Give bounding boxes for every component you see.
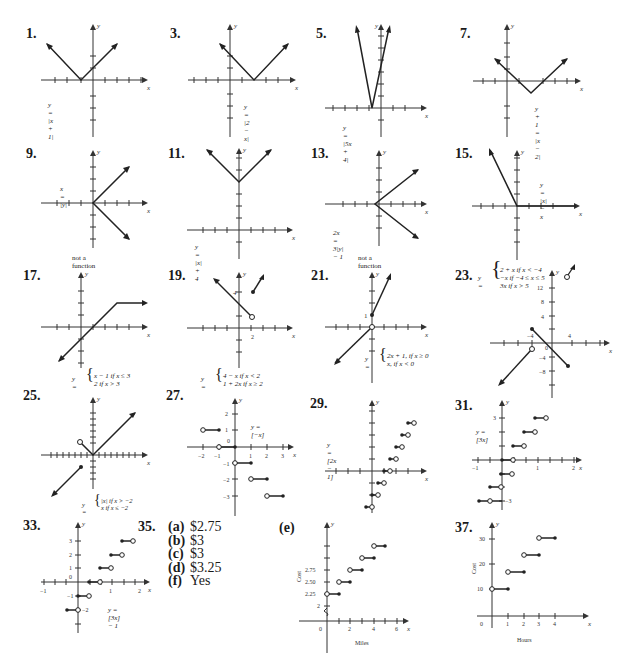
- svg-text:y: y: [242, 270, 247, 278]
- svg-text:6: 6: [395, 626, 398, 632]
- svg-text:0: 0: [480, 621, 483, 627]
- svg-text:−2: −2: [82, 607, 88, 613]
- graph-33: −1 1 2 3 2 1 0 −1 −2 xy: [38, 520, 168, 640]
- problem-number: 27.: [166, 388, 184, 404]
- svg-text:−1: −1: [214, 453, 220, 459]
- problem-number: 23.: [455, 268, 473, 284]
- svg-text:Hours: Hours: [517, 637, 532, 643]
- problem-number: 31.: [455, 398, 473, 414]
- svg-text:x: x: [147, 586, 152, 594]
- graph-1: xy: [38, 22, 188, 162]
- svg-text:3: 3: [493, 415, 496, 421]
- not-a-function-note: not a function: [358, 254, 381, 270]
- problem-number: 1.: [26, 26, 37, 42]
- not-a-function-note: not a function: [72, 254, 95, 270]
- problem-number: 15.: [455, 146, 473, 162]
- svg-text:20: 20: [479, 561, 485, 567]
- equation-label: y = [−x]: [251, 423, 264, 439]
- answer-a: (a)$2.75: [168, 520, 222, 534]
- equation-label: 2x = 3|y| − 1: [333, 229, 343, 261]
- svg-text:2: 2: [251, 334, 254, 340]
- graph-27: −2 −1 1 2 3 2 1 0 −1 −2 −3 xy: [185, 396, 315, 526]
- svg-text:x: x: [146, 331, 151, 339]
- svg-text:12: 12: [537, 285, 543, 291]
- svg-text:x: x: [424, 208, 429, 216]
- problem-number: 3.: [170, 26, 181, 42]
- svg-text:4: 4: [233, 289, 237, 297]
- graph-35e: 2.75 2.50 2.25 2 0 2 4 6 Miles Cost xy: [295, 520, 425, 660]
- svg-text:Cost: Cost: [296, 571, 302, 582]
- svg-text:−3: −3: [505, 498, 511, 504]
- svg-text:x: x: [292, 451, 297, 459]
- svg-text:4: 4: [553, 621, 556, 627]
- svg-text:−2: −2: [223, 477, 229, 483]
- svg-text:−8: −8: [539, 369, 545, 375]
- svg-text:−4: −4: [527, 333, 533, 339]
- svg-text:8: 8: [541, 299, 544, 305]
- svg-text:2: 2: [225, 411, 228, 417]
- svg-text:1: 1: [109, 588, 112, 594]
- graph-37: 30 20 10 0 1 2 3 4 Hours Cost xy: [472, 520, 612, 650]
- graph-21: 1 xy: [325, 270, 445, 390]
- equation-label: y = |x| − x: [540, 181, 547, 221]
- svg-text:1: 1: [249, 453, 252, 459]
- svg-text:y: y: [81, 520, 86, 528]
- equation-label: y = |x + 1|: [48, 101, 53, 141]
- svg-text:2.75: 2.75: [305, 567, 316, 573]
- svg-text:0: 0: [227, 438, 230, 444]
- svg-text:y: y: [96, 148, 101, 156]
- svg-text:x: x: [146, 459, 151, 467]
- svg-text:2: 2: [317, 603, 320, 609]
- svg-text:y: y: [233, 22, 238, 30]
- graph-7: xy: [473, 22, 593, 162]
- svg-text:0: 0: [69, 574, 72, 580]
- problem-number: 35.: [138, 520, 156, 534]
- svg-text:x: x: [291, 234, 296, 242]
- problem-number: 37.: [455, 520, 473, 536]
- equation-label: y = [3x]: [476, 428, 488, 444]
- problem-number: 9.: [26, 146, 37, 162]
- problem-number: 7.: [460, 26, 471, 42]
- svg-text:2: 2: [265, 453, 268, 459]
- answer-b: (b)$3: [168, 534, 222, 548]
- svg-text:x: x: [294, 84, 299, 92]
- svg-text:x: x: [406, 625, 411, 633]
- svg-text:y: y: [374, 22, 379, 30]
- svg-text:y: y: [242, 146, 247, 154]
- svg-text:1: 1: [536, 465, 539, 471]
- svg-text:1: 1: [225, 427, 228, 433]
- graph-29: xy: [325, 398, 445, 518]
- equation-label: x = |y|: [60, 185, 67, 209]
- svg-text:4: 4: [568, 333, 571, 339]
- svg-text:y: y: [330, 520, 335, 528]
- svg-text:−1: −1: [223, 461, 229, 467]
- svg-text:x: x: [424, 331, 429, 339]
- svg-text:y: y: [96, 22, 101, 30]
- svg-text:0: 0: [319, 626, 322, 632]
- answer-c: (c)$3: [168, 547, 222, 561]
- svg-text:2: 2: [348, 626, 351, 632]
- svg-text:y: y: [96, 395, 101, 403]
- svg-text:−3: −3: [223, 494, 229, 500]
- svg-text:−1: −1: [472, 465, 478, 471]
- svg-text:x: x: [578, 464, 583, 472]
- svg-text:y: y: [505, 398, 510, 406]
- svg-text:x: x: [579, 85, 584, 93]
- svg-text:3: 3: [281, 453, 284, 459]
- svg-text:30: 30: [479, 536, 485, 542]
- svg-text:x: x: [608, 347, 613, 355]
- svg-text:−4: −4: [539, 355, 545, 361]
- problem-number: 11.: [168, 146, 185, 162]
- svg-text:2: 2: [572, 465, 575, 471]
- graph-17: xy: [38, 270, 188, 380]
- svg-text:y: y: [555, 268, 560, 276]
- svg-text:2.50: 2.50: [305, 579, 316, 585]
- answer-f: (f)Yes: [168, 574, 222, 588]
- svg-text:x: x: [291, 332, 296, 340]
- svg-text:1: 1: [69, 565, 72, 571]
- graph-19: 4 2 xy: [185, 270, 305, 380]
- svg-text:x: x: [578, 210, 583, 218]
- svg-text:y: y: [375, 270, 380, 278]
- graph-15: xy: [472, 148, 592, 268]
- svg-text:−2: −2: [198, 453, 204, 459]
